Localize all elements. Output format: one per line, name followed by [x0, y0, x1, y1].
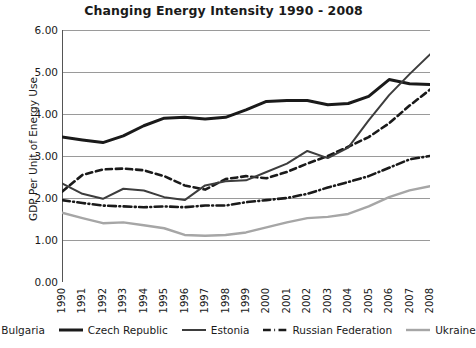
legend-line-swatch	[405, 325, 431, 335]
y-tick-label: 5.00	[22, 67, 58, 78]
legend-line-swatch	[262, 325, 288, 335]
x-tick-label: 1993	[118, 288, 128, 313]
y-tick-label: 6.00	[22, 25, 58, 36]
x-tick-label: 2000	[261, 288, 271, 313]
x-tick-label: 1994	[139, 288, 149, 313]
series-line-bulgaria	[62, 90, 430, 192]
y-axis-tick-labels: 6.005.004.003.002.001.000.00	[16, 0, 58, 348]
x-tick-label: 2001	[282, 288, 292, 313]
x-tick-label: 2005	[364, 288, 374, 313]
x-tick-label: 2008	[425, 288, 435, 313]
x-tick-label: 1996	[180, 288, 190, 313]
series-line-ukraine	[62, 186, 430, 236]
series-line-estonia	[62, 54, 430, 200]
x-tick-label: 2004	[343, 288, 353, 313]
legend-item-russian-federation[interactable]: Russian Federation	[262, 324, 392, 336]
legend-label: Ukraine	[435, 324, 476, 336]
legend-item-estonia[interactable]: Estonia	[181, 324, 250, 336]
legend-item-ukraine[interactable]: Ukraine	[405, 324, 476, 336]
chart-title: Changing Energy Intensity 1990 - 2008	[0, 3, 447, 18]
x-tick-label: 1999	[241, 288, 251, 313]
legend-label: Bulgaria	[1, 324, 45, 336]
y-tick-label: 0.00	[22, 277, 58, 288]
x-tick-label: 2006	[384, 288, 394, 313]
x-axis-tick-labels: 1990199119921993199419951996199719981999…	[62, 286, 430, 322]
legend-label: Estonia	[211, 324, 250, 336]
plot-svg	[62, 30, 430, 282]
x-tick-label: 1992	[98, 288, 108, 313]
x-tick-label: 1995	[159, 288, 169, 313]
y-tick-label: 1.00	[22, 235, 58, 246]
x-tick-label: 1991	[77, 288, 87, 313]
y-tick-label: 4.00	[22, 109, 58, 120]
y-tick-label: 2.00	[22, 193, 58, 204]
chart-legend: BulgariaCzech RepublicEstoniaRussian Fed…	[0, 324, 447, 336]
x-tick-label: 2002	[302, 288, 312, 313]
legend-label: Czech Republic	[88, 324, 168, 336]
legend-line-swatch	[58, 325, 84, 335]
x-tick-label: 1997	[200, 288, 210, 313]
plot-area	[62, 30, 430, 282]
legend-label: Russian Federation	[292, 324, 392, 336]
legend-item-bulgaria[interactable]: Bulgaria	[0, 324, 45, 336]
x-tick-label: 2003	[323, 288, 333, 313]
x-tick-label: 1990	[57, 288, 67, 313]
x-tick-label: 1998	[221, 288, 231, 313]
legend-line-swatch	[181, 325, 207, 335]
legend-item-czech-republic[interactable]: Czech Republic	[58, 324, 168, 336]
y-tick-label: 3.00	[22, 151, 58, 162]
series-line-russian-federation	[62, 156, 430, 207]
x-tick-label: 2007	[405, 288, 415, 313]
